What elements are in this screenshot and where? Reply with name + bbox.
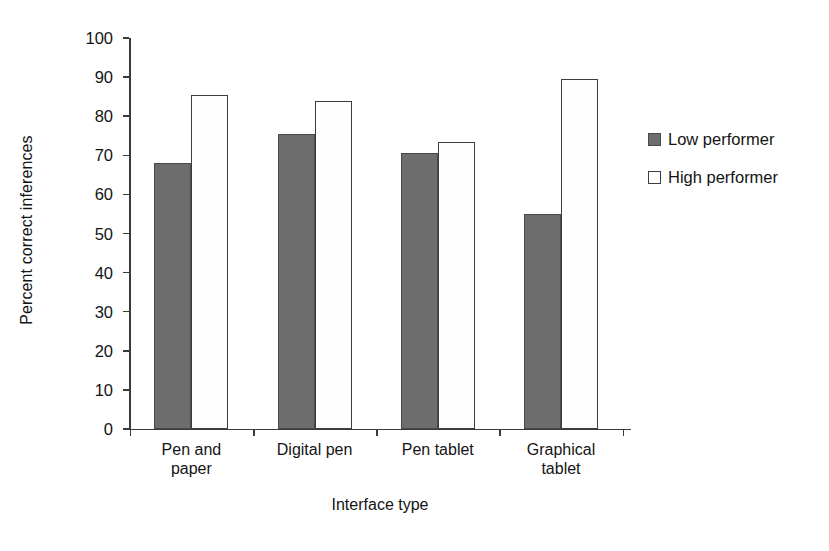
chart-legend: Low performer High performer bbox=[648, 130, 823, 206]
filled-gray-square-icon bbox=[648, 133, 661, 146]
bar-high-performer bbox=[438, 142, 475, 429]
x-axis-category-label: Pen tablet bbox=[376, 440, 499, 459]
bar-chart-figure: Percent correct inferences 0102030405060… bbox=[0, 0, 829, 551]
x-axis-title: Interface type bbox=[130, 496, 630, 514]
y-axis-tick-label: 20 bbox=[71, 343, 113, 360]
y-axis-tick-label: 40 bbox=[71, 265, 113, 282]
x-axis-category-label-line: Graphical bbox=[499, 440, 622, 459]
y-axis-tick-label: 50 bbox=[71, 226, 113, 243]
open-white-square-icon bbox=[648, 171, 661, 184]
bar-high-performer bbox=[191, 95, 228, 429]
y-axis-title: Percent correct inferences bbox=[18, 20, 58, 440]
y-axis-tick bbox=[123, 311, 129, 313]
x-axis-tick bbox=[623, 429, 625, 436]
y-axis-tick-label: 10 bbox=[71, 382, 113, 399]
x-axis-category-label: Digital pen bbox=[253, 440, 376, 459]
y-axis-tick bbox=[123, 194, 129, 196]
legend-item-high-performer: High performer bbox=[648, 168, 823, 187]
y-axis-line bbox=[129, 38, 131, 430]
legend-label-high-performer: High performer bbox=[668, 168, 778, 187]
x-axis-category-label-line: Pen tablet bbox=[376, 440, 499, 459]
x-axis-category-label: Pen andpaper bbox=[130, 440, 253, 478]
bar-high-performer bbox=[315, 101, 352, 429]
x-axis-category-label: Graphicaltablet bbox=[499, 440, 622, 478]
y-axis-tick-label: 60 bbox=[71, 186, 113, 203]
x-axis-category-label-line: Pen and bbox=[130, 440, 253, 459]
y-axis-tick-label: 0 bbox=[71, 421, 113, 438]
y-axis-tick bbox=[123, 389, 129, 391]
x-axis-category-label-line: tablet bbox=[499, 459, 622, 478]
x-axis-tick bbox=[499, 429, 501, 436]
y-axis-tick bbox=[123, 155, 129, 157]
y-axis-tick bbox=[123, 272, 129, 274]
y-axis-tick-label: 90 bbox=[71, 69, 113, 86]
bar-high-performer bbox=[561, 79, 598, 429]
y-axis-tick bbox=[123, 115, 129, 117]
bar-low-performer bbox=[278, 134, 315, 429]
legend-item-low-performer: Low performer bbox=[648, 130, 823, 149]
y-axis-tick bbox=[123, 233, 129, 235]
x-axis-tick bbox=[253, 429, 255, 436]
y-axis-tick bbox=[123, 428, 129, 430]
x-axis-category-label-line: Digital pen bbox=[253, 440, 376, 459]
y-axis-tick bbox=[123, 350, 129, 352]
x-axis-tick bbox=[130, 429, 132, 436]
y-axis-tick-label: 100 bbox=[71, 30, 113, 47]
y-axis-tick-label: 30 bbox=[71, 304, 113, 321]
bar-low-performer bbox=[524, 214, 561, 429]
y-axis-tick bbox=[123, 37, 129, 39]
x-axis-category-label-line: paper bbox=[130, 459, 253, 478]
y-axis-tick-label: 70 bbox=[71, 147, 113, 164]
legend-label-low-performer: Low performer bbox=[668, 130, 774, 149]
y-axis-tick bbox=[123, 76, 129, 78]
bar-low-performer bbox=[154, 163, 191, 429]
bar-low-performer bbox=[401, 153, 438, 429]
y-axis-tick-label: 80 bbox=[71, 108, 113, 125]
x-axis-tick bbox=[376, 429, 378, 436]
